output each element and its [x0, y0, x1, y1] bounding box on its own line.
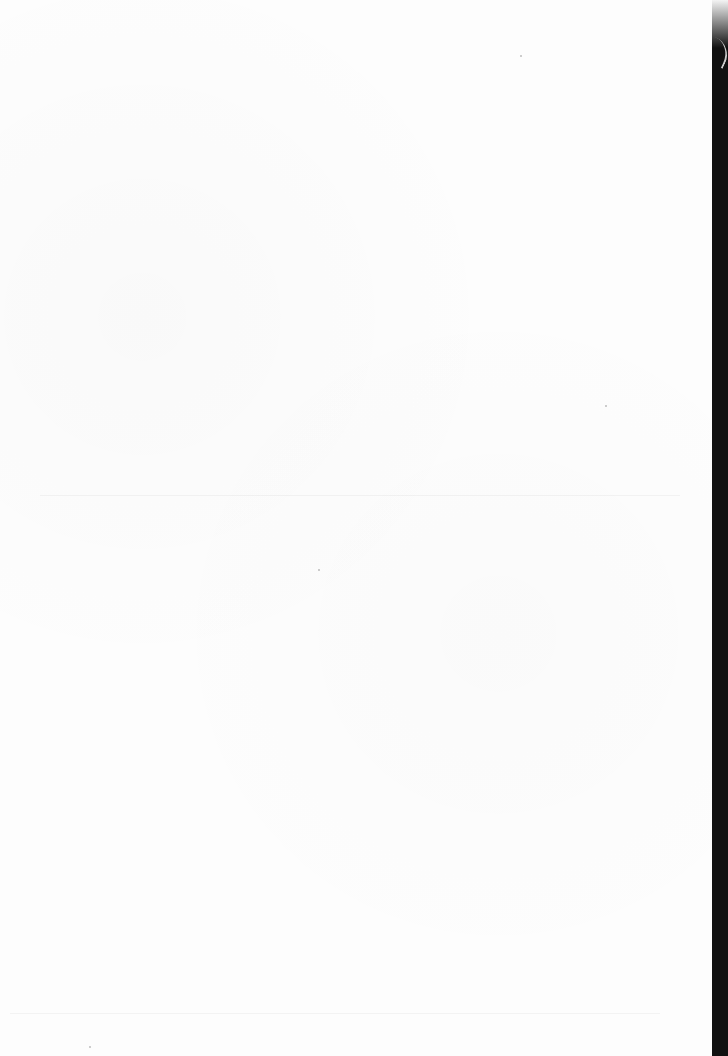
bottom-faint-line [10, 1013, 660, 1014]
dust-speck [318, 569, 320, 571]
dust-speck [89, 1046, 91, 1048]
bleed-through-line [40, 495, 680, 496]
blank-scanned-page [0, 0, 712, 1056]
dust-speck [520, 55, 522, 57]
dust-speck [605, 405, 607, 407]
scanner-edge-shadow [712, 0, 728, 1056]
